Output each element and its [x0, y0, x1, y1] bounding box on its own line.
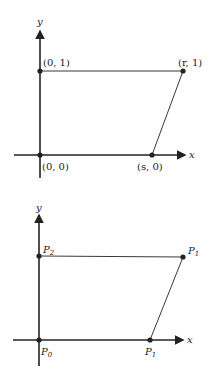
point-top-left	[37, 68, 42, 73]
slanted-edge	[152, 71, 183, 155]
top-edge	[39, 256, 183, 257]
label-top-right: (r, 1)	[178, 57, 202, 68]
label-bottom-right: P1	[144, 346, 156, 359]
slanted-edge	[150, 257, 183, 340]
diagram-canvas: x y (0, 0) (0, 1) (r, 1) (s, 0) x y P0 P…	[0, 0, 220, 382]
point-top-left	[36, 253, 41, 258]
point-bottom-right	[147, 337, 152, 342]
label-top-left: P2	[42, 244, 55, 257]
label-top-right: P1	[187, 245, 199, 258]
point-bottom-right	[149, 152, 154, 157]
x-axis-label: x	[187, 334, 193, 345]
label-origin: P0	[40, 346, 53, 359]
y-axis-label: y	[35, 202, 42, 213]
diagram-top: x y (0, 0) (0, 1) (r, 1) (s, 0)	[14, 16, 202, 178]
point-top-right	[180, 68, 185, 73]
label-origin: (0, 0)	[42, 161, 69, 172]
diagram-bottom: x y P0 P2 P1 P1	[13, 202, 199, 366]
point-top-right	[180, 254, 185, 259]
label-top-left: (0, 1)	[43, 57, 70, 68]
point-origin	[36, 337, 41, 342]
label-bottom-right: (s, 0)	[137, 161, 163, 172]
x-axis-label: x	[189, 149, 195, 160]
point-origin	[37, 152, 42, 157]
y-axis-label: y	[36, 16, 43, 27]
